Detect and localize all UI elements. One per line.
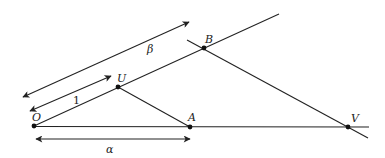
geometry-diagram: O U A B V β 1 α [0,0,385,158]
point-A [188,125,193,130]
label-O: O [32,111,41,124]
label-A: A [187,111,196,124]
label-alpha: α [106,143,114,156]
point-B [202,46,207,51]
label-U: U [117,72,127,85]
label-beta: β [146,43,153,56]
unit-measure-arrow [30,76,111,111]
segment-U-A [118,87,190,127]
label-unit: 1 [73,94,80,107]
beta-measure-arrow [23,22,189,97]
point-O [32,124,37,129]
line-B-V [187,40,368,138]
label-B: B [204,33,213,46]
point-U [116,85,121,90]
point-V [346,125,351,130]
label-V: V [351,112,360,125]
ray-O-horizontal [34,127,369,128]
